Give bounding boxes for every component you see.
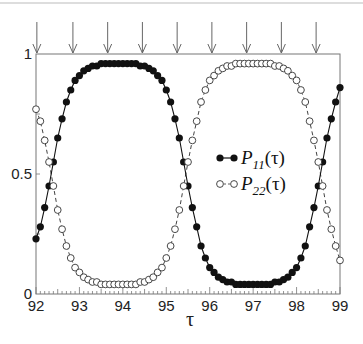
down-arrow-icon: [138, 22, 146, 53]
legend-item-p11: P11(τ): [216, 147, 285, 172]
down-arrow-icon: [208, 22, 216, 53]
down-arrow-icon: [312, 22, 320, 53]
open-circle-icon: [231, 181, 238, 188]
down-arrow-icon: [33, 22, 41, 53]
x-tick-label: 97: [245, 297, 262, 314]
x-tick-label: 95: [158, 297, 175, 314]
open-circle-icon: [217, 181, 224, 188]
x-tick-label: 99: [332, 297, 349, 314]
down-arrow-icon: [173, 22, 181, 53]
y-tick-label: 1: [24, 45, 32, 62]
arrow-markers: [33, 22, 320, 53]
legend-item-p22: P22(τ): [217, 173, 286, 198]
x-tick-label: 94: [115, 297, 132, 314]
series-p11: [32, 60, 343, 288]
x-tick-label: 98: [288, 297, 305, 314]
filled-circle-icon: [230, 154, 237, 161]
down-arrow-icon: [104, 22, 112, 53]
x-axis-title: τ: [186, 308, 194, 330]
svg-text:P22(τ): P22(τ): [240, 173, 286, 198]
chart: 9293949596979899 00.51 τ P11(τ) P22(τ): [0, 0, 363, 344]
y-tick-label: 0.5: [11, 165, 32, 182]
x-tick-label: 96: [201, 297, 218, 314]
x-tick-label: 93: [71, 297, 88, 314]
svg-text:P11(τ): P11(τ): [240, 147, 285, 172]
down-arrow-icon: [277, 22, 285, 53]
series-p22: [33, 60, 344, 288]
plot-series: [32, 60, 343, 288]
legend: P11(τ) P22(τ): [216, 147, 286, 198]
down-arrow-icon: [69, 22, 77, 53]
filled-circle-icon: [216, 154, 223, 161]
plot-frame: [36, 54, 340, 294]
down-arrow-icon: [243, 22, 251, 53]
y-tick-label: 0: [24, 285, 32, 302]
